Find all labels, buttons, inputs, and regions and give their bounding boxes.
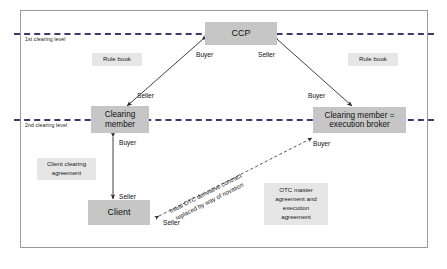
note-client-clearing-agreement-line1: Client clearing — [47, 160, 86, 169]
note-rule-book-right: Rule book — [348, 53, 398, 66]
role-label-broker-buyer-bottom: Buyer — [313, 140, 330, 147]
role-label-ccp-buyer: Buyer — [196, 51, 213, 58]
role-label-broker-buyer-top: Buyer — [308, 92, 325, 99]
role-label-clearing-member-seller: Seller — [137, 92, 154, 99]
diagram-canvas: 1st clearing level 2nd clearing level — [0, 0, 447, 269]
role-label-ccp-seller: Seller — [258, 51, 275, 58]
node-ccp-label: CCP — [231, 28, 250, 38]
node-client[interactable]: Client — [88, 200, 150, 225]
node-clearing-member-line1: Clearing — [105, 110, 136, 119]
role-label-clearing-member-buyer: Buyer — [119, 139, 136, 146]
node-execution-broker-line2: execution broker — [329, 120, 390, 129]
node-clearing-member-line2: member — [105, 120, 135, 129]
role-label-client-seller: Seller — [119, 193, 136, 200]
node-clearing-member[interactable]: Clearing member — [91, 106, 149, 133]
note-otc-master-agreement-line1: OTC master — [279, 186, 313, 195]
node-client-label: Client — [107, 207, 130, 217]
note-otc-master-agreement-line3: execution — [283, 204, 310, 213]
note-client-clearing-agreement: Client clearing agreement — [37, 158, 96, 180]
note-client-clearing-agreement-line2: agreement — [52, 169, 82, 178]
node-ccp[interactable]: CCP — [205, 22, 277, 45]
node-execution-broker-line1: Clearing member = — [325, 111, 395, 120]
note-rule-book-left-label: Rule book — [103, 55, 131, 64]
node-execution-broker[interactable]: Clearing member = execution broker — [313, 107, 406, 133]
note-otc-master-agreement-line4: agreement — [281, 213, 311, 222]
note-otc-master-agreement: OTC master agreement and execution agree… — [264, 183, 328, 225]
note-rule-book-left: Rule book — [92, 53, 142, 66]
note-rule-book-right-label: Rule book — [359, 55, 387, 64]
note-otc-master-agreement-line2: agreement and — [275, 195, 317, 204]
